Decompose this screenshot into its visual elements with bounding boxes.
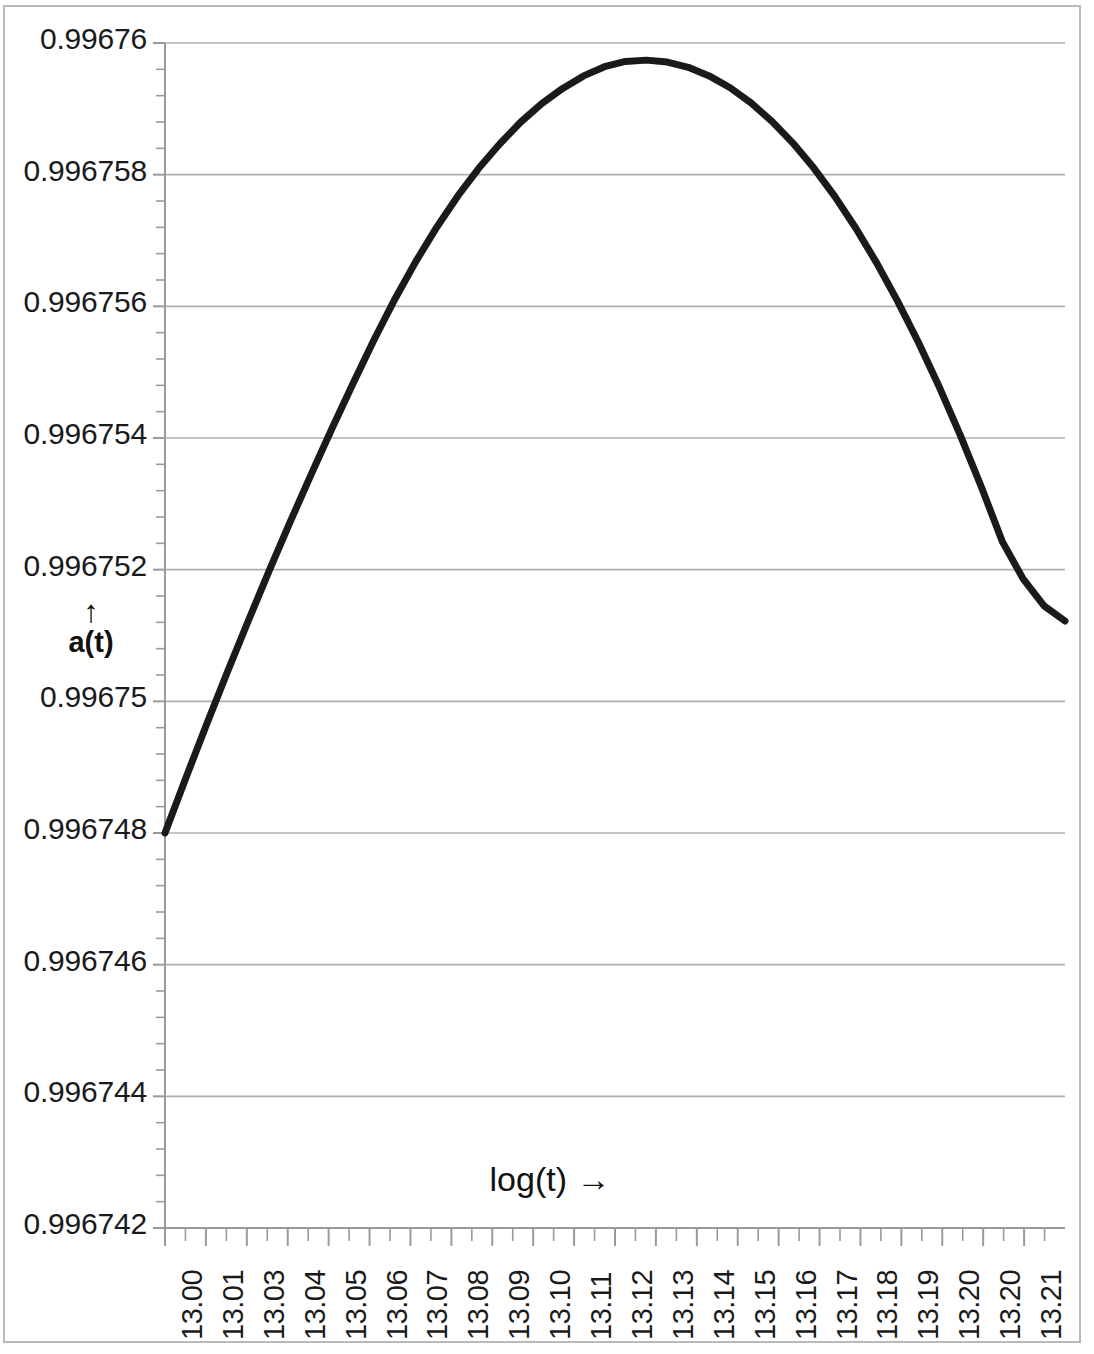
plot-area (0, 0, 1094, 1354)
x-axis-tick-label: 13.06 (381, 1270, 414, 1340)
x-axis-tick-label: 13.12 (626, 1270, 659, 1340)
x-axis-tick-label: 13.16 (790, 1270, 823, 1340)
gridlines (165, 43, 1065, 1228)
x-axis-tick-label: 13.09 (503, 1270, 536, 1340)
x-axis-tick-label: 13.05 (340, 1270, 373, 1340)
x-axis-tick-label: 13.08 (462, 1270, 495, 1340)
x-axis-tick-label: 13.20 (953, 1270, 986, 1340)
x-axis-tick-label: 13.17 (831, 1270, 864, 1340)
x-axis-tick-label: 13.03 (258, 1270, 291, 1340)
x-axis-tick-label: 13.20 (994, 1270, 1027, 1340)
x-axis-tick-label: 13.18 (871, 1270, 904, 1340)
x-axis-tick-label: 13.10 (544, 1270, 577, 1340)
chart-figure: 0.9967420.9967440.9967460.9967480.996750… (0, 0, 1094, 1354)
x-axis-tick-label: 13.00 (176, 1270, 209, 1340)
y-axis-ticks (153, 43, 165, 1228)
x-axis-ticks (165, 1228, 1045, 1246)
x-axis-title: log(t) → (400, 1160, 700, 1199)
x-axis-tick-label: 13.07 (421, 1270, 454, 1340)
x-axis-tick-label: 13.11 (585, 1272, 618, 1340)
x-axis-tick-label: 13.19 (912, 1270, 945, 1340)
x-axis-tick-label: 13.21 (1035, 1270, 1068, 1340)
x-axis-tick-label: 13.15 (749, 1270, 782, 1340)
data-series-curve (165, 60, 1065, 833)
x-axis-tick-label: 13.14 (708, 1270, 741, 1340)
x-axis-tick-label: 13.13 (667, 1270, 700, 1340)
x-axis-tick-label: 13.04 (299, 1270, 332, 1340)
x-axis-tick-label: 13.01 (217, 1270, 250, 1340)
